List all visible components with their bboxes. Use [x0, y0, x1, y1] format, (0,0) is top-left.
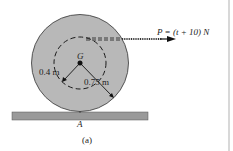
center-label: G	[77, 52, 84, 61]
wheel-diagram	[0, 0, 233, 151]
force-label: P = (t + 10) N	[157, 28, 209, 37]
inner-radius-label: 0.4 m	[39, 68, 60, 77]
page-edge-divider	[228, 0, 230, 151]
contact-point-label: A	[77, 120, 83, 129]
outer-radius-label: 0.75 m	[84, 78, 109, 87]
figure-caption: (a)	[82, 136, 92, 145]
